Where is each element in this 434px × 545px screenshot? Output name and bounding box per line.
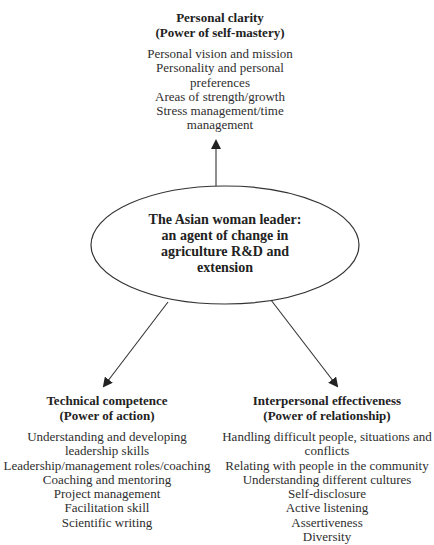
personal-clarity-items: Personal vision and mission Personality … xyxy=(120,47,320,133)
list-item: Facilitation skill xyxy=(0,501,214,515)
list-item: Assertiveness xyxy=(222,516,432,530)
list-item: Leadership/management roles/coaching xyxy=(0,459,214,473)
list-item: Personality and personal preferences xyxy=(120,61,320,90)
personal-clarity-title: Personal clarity xyxy=(120,10,320,25)
list-item: Scientific writing xyxy=(0,516,214,530)
list-item: Relating with people in the community xyxy=(222,459,432,473)
list-item: Areas of strength/growth xyxy=(120,90,320,104)
list-item: Active listening xyxy=(222,501,432,515)
list-item: Handling difficult people, situations an… xyxy=(222,430,432,459)
technical-competence-title: Technical competence xyxy=(0,393,214,408)
list-item: Understanding different cultures xyxy=(222,473,432,487)
interpersonal-effectiveness-subtitle: (Power of relationship) xyxy=(222,408,432,423)
center-line: an agent of change in xyxy=(140,228,310,244)
list-item: Stress management/time management xyxy=(120,104,320,133)
personal-clarity-block: Personal clarity (Power of self-mastery)… xyxy=(120,10,320,133)
list-item: Project management xyxy=(0,487,214,501)
list-item: Self-disclosure xyxy=(222,487,432,501)
leadership-diagram: The Asian woman leader: an agent of chan… xyxy=(0,0,434,545)
center-line: agriculture R&D and xyxy=(140,244,310,260)
arrow-to-technical-competence xyxy=(104,302,168,386)
arrow-to-interpersonal-effectiveness xyxy=(271,300,337,386)
center-node-text: The Asian woman leader: an agent of chan… xyxy=(140,212,310,276)
list-item: Personal vision and mission xyxy=(120,47,320,61)
list-item: Coaching and mentoring xyxy=(0,473,214,487)
center-line: The Asian woman leader: xyxy=(140,212,310,228)
interpersonal-effectiveness-block: Interpersonal effectiveness (Power of re… xyxy=(222,393,432,544)
interpersonal-effectiveness-title: Interpersonal effectiveness xyxy=(222,393,432,408)
technical-competence-items: Understanding and developing leadership … xyxy=(0,430,214,530)
list-item: Understanding and developing leadership … xyxy=(0,430,214,459)
technical-competence-block: Technical competence (Power of action) U… xyxy=(0,393,214,530)
technical-competence-subtitle: (Power of action) xyxy=(0,408,214,423)
personal-clarity-subtitle: (Power of self-mastery) xyxy=(120,25,320,40)
interpersonal-effectiveness-items: Handling difficult people, situations an… xyxy=(222,430,432,544)
list-item: Diversity xyxy=(222,530,432,544)
center-line: extension xyxy=(140,260,310,276)
